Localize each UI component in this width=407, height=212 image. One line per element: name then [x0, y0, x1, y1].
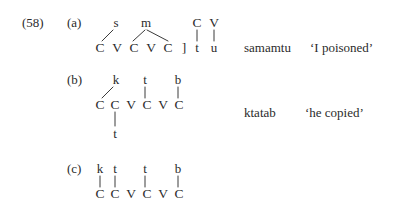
example-number: (58)	[22, 16, 44, 29]
melody-a-m: m	[141, 16, 151, 29]
skeleton-b-slot-5: V	[158, 98, 168, 111]
melody-b-k: k	[113, 73, 120, 86]
skeleton-a-slot-3: C	[129, 41, 138, 54]
suffix-skeleton-a-slot-2: V	[209, 16, 219, 29]
suffix-melody-a-t: t	[195, 41, 199, 54]
surface-word-a: samamtu	[244, 41, 291, 54]
gloss-a: ‘I poisoned’	[310, 41, 373, 54]
surface-word-b: ktatab	[244, 106, 276, 119]
suffix-melody-a-u: u	[211, 41, 218, 54]
skeleton-b-slot-1: C	[95, 98, 104, 111]
autosegmental-figure: (58) (a) s m C V C V C ] C V t u samamtu…	[0, 0, 407, 212]
sublabel-a: (a)	[67, 16, 81, 29]
skeleton-c-slot-4: C	[142, 187, 151, 200]
skeleton-b-slot-4: C	[142, 98, 151, 111]
lower-melody-b-t: t	[113, 127, 117, 140]
skeleton-c-slot-6: C	[174, 187, 183, 200]
melody-c-t-1: t	[113, 162, 117, 175]
skeleton-a-slot-2: V	[112, 41, 122, 54]
melody-c-t-2: t	[143, 162, 147, 175]
skeleton-b-slot-2: C	[110, 98, 119, 111]
skeleton-a-slot-1: C	[95, 41, 104, 54]
gloss-b: ‘he copied’	[305, 106, 364, 119]
skeleton-c-slot-3: V	[126, 187, 136, 200]
suffix-skeleton-a-slot-1: C	[192, 16, 201, 29]
skeleton-c-slot-1: C	[95, 187, 104, 200]
skeleton-b-slot-3: V	[126, 98, 136, 111]
melody-b-t: t	[143, 73, 147, 86]
skeleton-b-slot-6: C	[174, 98, 183, 111]
melody-c-k: k	[97, 162, 104, 175]
melody-c-b: b	[175, 162, 182, 175]
morpheme-bracket-a: ]	[182, 41, 187, 54]
melody-b-b: b	[175, 73, 182, 86]
sublabel-b: (b)	[67, 73, 82, 86]
sublabel-c: (c)	[67, 162, 81, 175]
skeleton-c-slot-5: V	[158, 187, 168, 200]
skeleton-a-slot-5: C	[163, 41, 172, 54]
skeleton-c-slot-2: C	[110, 187, 119, 200]
melody-a-s: s	[113, 16, 118, 29]
skeleton-a-slot-4: V	[146, 41, 156, 54]
